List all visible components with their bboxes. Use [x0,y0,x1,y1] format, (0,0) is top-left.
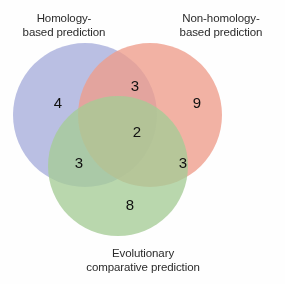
count-homology-only: 4 [47,95,69,111]
count-homology-and-evolutionary: 3 [68,155,90,171]
count-nonhomology-and-evolutionary: 3 [172,155,194,171]
venn-diagram-figure: Homology- based prediction Non-homology-… [0,0,285,284]
venn-circles-canvas [0,0,285,284]
count-evolutionary-only: 8 [119,197,141,213]
set-label-evolutionary-comparative-prediction: Evolutionary comparative prediction [52,247,234,274]
count-all-three-sets: 2 [126,124,148,140]
count-homology-and-nonhomology: 3 [124,78,146,94]
count-nonhomology-only: 9 [186,95,208,111]
set-label-homology-based-prediction: Homology- based prediction [6,12,122,39]
set-label-non-homology-based-prediction: Non-homology- based prediction [160,12,282,39]
